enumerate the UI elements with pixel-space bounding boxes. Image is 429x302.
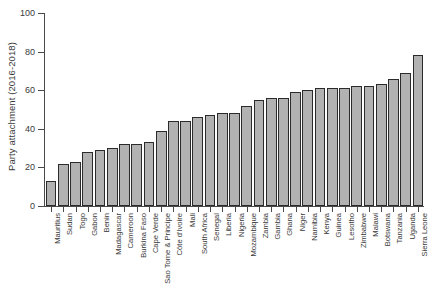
bar bbox=[82, 152, 93, 206]
bar bbox=[339, 88, 350, 206]
y-tick-label: 20 bbox=[7, 162, 35, 172]
bar bbox=[302, 90, 313, 206]
x-tick bbox=[393, 207, 394, 212]
y-axis-title: Party attachment (2016-2018) bbox=[0, 0, 22, 212]
y-tick-label: 0 bbox=[7, 201, 35, 211]
x-tick-label: Madagascar bbox=[115, 213, 123, 255]
x-tick-label: Sudan bbox=[66, 213, 74, 235]
bar bbox=[254, 100, 265, 206]
bar bbox=[413, 55, 424, 206]
bar bbox=[131, 144, 142, 206]
x-tick-label: Mozambique bbox=[250, 213, 258, 256]
x-tick bbox=[198, 207, 199, 212]
y-tick bbox=[38, 13, 44, 14]
x-tick-label: Mauritius bbox=[54, 213, 62, 244]
x-tick-label: Togo bbox=[79, 213, 87, 229]
plot-area bbox=[45, 13, 424, 206]
bar bbox=[351, 86, 362, 206]
x-tick bbox=[51, 207, 52, 212]
x-tick bbox=[149, 207, 150, 212]
x-tick bbox=[345, 207, 346, 212]
bar bbox=[144, 142, 155, 206]
x-tick-label: Ghana bbox=[286, 213, 294, 236]
x-tick-label: Lesotho bbox=[348, 213, 356, 240]
y-tick-label: 80 bbox=[7, 47, 35, 57]
x-tick bbox=[308, 207, 309, 212]
bar bbox=[388, 79, 399, 206]
bar bbox=[364, 86, 375, 206]
x-tick-label: Zambia bbox=[262, 213, 270, 238]
y-tick bbox=[38, 90, 44, 91]
bar bbox=[266, 98, 277, 206]
x-tick bbox=[357, 207, 358, 212]
x-tick-label: Niger bbox=[299, 213, 307, 231]
x-tick-label: Uganda bbox=[409, 213, 417, 240]
bar bbox=[315, 88, 326, 206]
x-tick-label: Cameroon bbox=[127, 213, 135, 248]
x-axis-labels: MauritiusSudanTogoGabonBeninMadagascarCa… bbox=[45, 213, 424, 302]
x-tick-label: Nigeria bbox=[238, 213, 246, 237]
x-tick-label: Burkina Faso bbox=[140, 213, 148, 258]
x-tick-label: Gambia bbox=[274, 213, 282, 240]
bar bbox=[95, 150, 106, 206]
x-tick-label: Senegal bbox=[213, 213, 221, 241]
bar bbox=[168, 121, 179, 206]
bar bbox=[327, 88, 338, 206]
x-tick bbox=[259, 207, 260, 212]
x-tick-label: Benin bbox=[103, 213, 111, 232]
x-tick-label: Botswana bbox=[384, 213, 392, 246]
x-tick-label: Malawi bbox=[372, 213, 380, 237]
x-tick bbox=[63, 207, 64, 212]
y-tick bbox=[38, 129, 44, 130]
x-tick-label: Sierra Leone bbox=[421, 213, 429, 256]
bar bbox=[290, 92, 301, 206]
x-tick bbox=[296, 207, 297, 212]
x-tick-label: Côte d'Ivoire bbox=[176, 213, 184, 255]
x-tick bbox=[235, 207, 236, 212]
x-tick-label: Mali bbox=[189, 213, 197, 227]
bar bbox=[107, 148, 118, 206]
x-tick-label: Namibia bbox=[311, 213, 319, 241]
bar bbox=[58, 164, 69, 206]
x-tick bbox=[186, 207, 187, 212]
x-tick bbox=[369, 207, 370, 212]
bar bbox=[70, 162, 81, 206]
bar bbox=[241, 106, 252, 206]
x-tick bbox=[271, 207, 272, 212]
x-tick bbox=[320, 207, 321, 212]
x-tick bbox=[332, 207, 333, 212]
bar bbox=[119, 144, 130, 206]
bar bbox=[217, 113, 228, 206]
x-tick-label: Cape Verde bbox=[152, 213, 160, 253]
bar bbox=[376, 84, 387, 206]
y-tick bbox=[38, 167, 44, 168]
x-tick-label: Gabon bbox=[91, 213, 99, 236]
x-tick bbox=[222, 207, 223, 212]
x-tick-label: Sao Tome & Principe bbox=[164, 213, 172, 284]
x-tick bbox=[283, 207, 284, 212]
bar bbox=[156, 131, 167, 206]
x-tick bbox=[173, 207, 174, 212]
x-tick-label: Tanzania bbox=[396, 213, 404, 243]
x-tick bbox=[88, 207, 89, 212]
x-tick bbox=[381, 207, 382, 212]
bar bbox=[400, 73, 411, 206]
y-tick-label: 100 bbox=[7, 8, 35, 18]
y-tick-label: 60 bbox=[7, 85, 35, 95]
x-tick bbox=[210, 207, 211, 212]
bar bbox=[192, 117, 203, 206]
x-tick bbox=[418, 207, 419, 212]
x-tick bbox=[124, 207, 125, 212]
bar bbox=[180, 121, 191, 206]
y-tick-label: 40 bbox=[7, 124, 35, 134]
x-tick-label: Guinea bbox=[335, 213, 343, 238]
x-tick bbox=[247, 207, 248, 212]
bar bbox=[229, 113, 240, 206]
x-tick bbox=[137, 207, 138, 212]
x-tick bbox=[112, 207, 113, 212]
x-tick-label: South Africa bbox=[201, 213, 209, 254]
x-tick-label: Kenya bbox=[323, 213, 331, 235]
bar bbox=[278, 98, 289, 206]
y-axis-title-label: Party attachment (2016-2018) bbox=[6, 41, 17, 170]
